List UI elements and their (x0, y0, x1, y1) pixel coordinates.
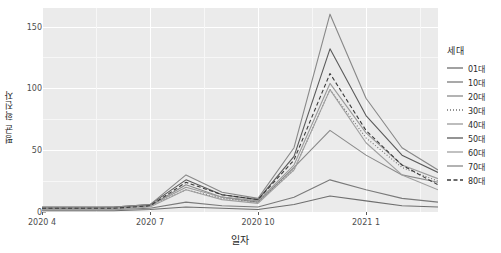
series-line (42, 14, 438, 208)
x-tick-label: 2021 1 (352, 218, 380, 227)
x-tick-mark (150, 212, 151, 215)
x-tick-label: 2020 4 (28, 218, 56, 227)
legend-item-label: 01대 (468, 63, 485, 74)
series-line (42, 49, 438, 207)
legend-item-label: 20대 (468, 91, 485, 102)
legend-item[interactable]: 60대 (446, 145, 498, 159)
series-line (42, 90, 438, 210)
legend-item-label: 50대 (468, 133, 485, 144)
x-tick-mark (258, 212, 259, 215)
legend-title: 세대 (447, 44, 498, 57)
legend-item[interactable]: 50대 (446, 131, 498, 145)
plot-lines (42, 8, 438, 212)
legend-key-icon (446, 173, 464, 187)
legend-item-label: 40대 (468, 119, 485, 130)
legend-item[interactable]: 20대 (446, 89, 498, 103)
series-line (42, 90, 438, 209)
legend-item-label: 80대 (468, 175, 485, 186)
legend-key-icon (446, 117, 464, 131)
legend-items: 01대10대20대30대40대50대60대70대80대 (446, 61, 498, 187)
chart-root: 평균 확진자 일자 050100150 2020 42020 72020 102… (0, 0, 501, 253)
legend-key-icon (446, 89, 464, 103)
x-tick-mark (366, 212, 367, 215)
legend-item-label: 60대 (468, 147, 485, 158)
legend-key-icon (446, 131, 464, 145)
legend-item[interactable]: 30대 (446, 103, 498, 117)
legend-item-label: 30대 (468, 105, 485, 116)
legend-key-icon (446, 159, 464, 173)
legend-key-icon (446, 75, 464, 89)
legend-key-icon (446, 103, 464, 117)
legend-item-label: 70대 (468, 161, 485, 172)
legend-item[interactable]: 40대 (446, 117, 498, 131)
plot-panel (42, 8, 438, 212)
legend-item-label: 10대 (468, 77, 485, 88)
legend-item[interactable]: 80대 (446, 173, 498, 187)
x-tick-label: 2020 10 (241, 218, 274, 227)
legend-key-icon (446, 145, 464, 159)
legend-item[interactable]: 01대 (446, 61, 498, 75)
legend-key-icon (446, 61, 464, 75)
series-line (42, 83, 438, 208)
series-line (42, 180, 438, 210)
legend-item[interactable]: 10대 (446, 75, 498, 89)
legend-item[interactable]: 70대 (446, 159, 498, 173)
x-tick-label: 2020 7 (136, 218, 164, 227)
x-tick-mark (42, 212, 43, 215)
legend: 세대 01대10대20대30대40대50대60대70대80대 (446, 44, 498, 187)
series-line (42, 74, 438, 209)
